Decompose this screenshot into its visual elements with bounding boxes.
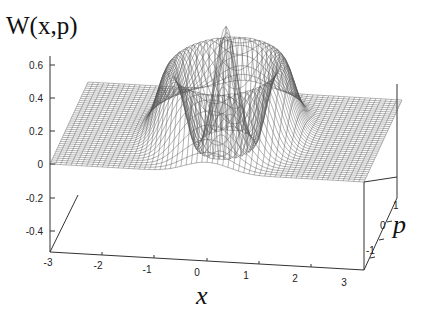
svg-text:3: 3	[341, 277, 347, 288]
svg-text:0.4: 0.4	[29, 93, 43, 104]
z-axis-title: W(x,p)	[6, 12, 78, 40]
x-axis-title: x	[195, 281, 208, 310]
svg-text:2: 2	[292, 273, 298, 284]
svg-text:-2: -2	[94, 260, 103, 271]
wigner-function-surface-plot: W(x,p) 0.6 0.4 0.2 0 -0.2 -0.4	[0, 0, 428, 316]
wireframe-surface	[50, 26, 402, 182]
svg-text:-0.4: -0.4	[26, 226, 44, 237]
svg-text:0.6: 0.6	[29, 60, 43, 71]
svg-text:-1: -1	[366, 245, 375, 256]
p-axis-title: p	[391, 210, 406, 239]
svg-text:1: 1	[243, 270, 249, 281]
svg-text:0.2: 0.2	[29, 126, 43, 137]
svg-text:-0.2: -0.2	[26, 193, 44, 204]
box-frame	[50, 56, 397, 270]
svg-text:0: 0	[37, 159, 43, 170]
svg-text:0: 0	[194, 267, 200, 278]
z-axis-tick-labels: 0.6 0.4 0.2 0 -0.2 -0.4	[26, 60, 44, 237]
svg-text:-1: -1	[143, 264, 152, 275]
svg-text:0: 0	[380, 220, 386, 231]
z-axis-ticks	[50, 65, 55, 231]
svg-text:-3: -3	[44, 257, 53, 268]
